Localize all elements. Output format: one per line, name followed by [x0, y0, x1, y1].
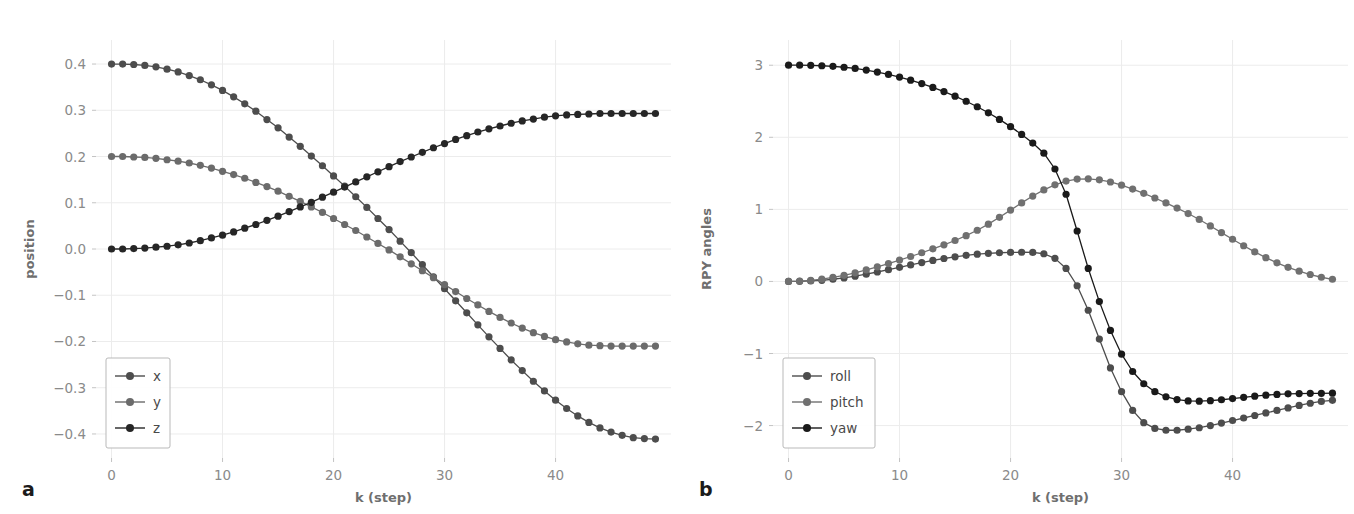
- data-point: [1018, 249, 1025, 256]
- data-point: [630, 434, 637, 441]
- data-point: [130, 61, 137, 68]
- x-tick-label: 30: [1113, 467, 1130, 483]
- data-point: [1062, 178, 1069, 185]
- data-point: [996, 116, 1003, 123]
- data-point: [263, 183, 270, 190]
- data-point: [374, 215, 381, 222]
- data-point: [452, 297, 459, 304]
- data-point: [1151, 388, 1158, 395]
- x-tick-label: 0: [107, 467, 116, 483]
- data-point: [152, 63, 159, 70]
- data-point: [574, 111, 581, 118]
- y-axis-title: RPY angles: [699, 208, 714, 290]
- data-point: [130, 245, 137, 252]
- data-point: [230, 228, 237, 235]
- data-point: [1262, 392, 1269, 399]
- data-point: [1318, 274, 1325, 281]
- data-point: [197, 76, 204, 83]
- x-tick-label: 10: [891, 467, 908, 483]
- data-point: [1162, 199, 1169, 206]
- data-point: [297, 143, 304, 150]
- legend-marker: [126, 398, 134, 406]
- panel-b: −2−10123010203040k (step)RPY anglesrollp…: [677, 0, 1354, 514]
- y-tick-label: 0.0: [65, 241, 86, 257]
- data-point: [1185, 210, 1192, 217]
- data-point: [508, 356, 515, 363]
- data-point: [186, 159, 193, 166]
- y-tick-label: −2: [743, 418, 763, 434]
- data-point: [1318, 398, 1325, 405]
- data-point: [219, 87, 226, 94]
- data-point: [1085, 265, 1092, 272]
- data-point: [1085, 175, 1092, 182]
- data-point: [141, 62, 148, 69]
- legend: rollpitchyaw: [783, 358, 875, 448]
- data-point: [197, 162, 204, 169]
- y-tick-label: −0.2: [53, 333, 86, 349]
- legend-marker: [126, 424, 134, 432]
- y-tick-label: 2: [754, 129, 763, 145]
- data-point: [219, 168, 226, 175]
- data-point: [1307, 400, 1314, 407]
- x-tick-label: 20: [325, 467, 342, 483]
- data-point: [452, 288, 459, 295]
- data-point: [585, 110, 592, 117]
- y-tick-label: 0.4: [65, 56, 86, 72]
- data-point: [363, 204, 370, 211]
- data-point: [1007, 206, 1014, 213]
- data-point: [852, 65, 859, 72]
- data-point: [175, 241, 182, 248]
- data-point: [1074, 282, 1081, 289]
- data-point: [1051, 165, 1058, 172]
- data-point: [1185, 397, 1192, 404]
- data-point: [541, 387, 548, 394]
- data-point: [552, 336, 559, 343]
- data-point: [119, 60, 126, 67]
- data-point: [1284, 264, 1291, 271]
- data-point: [1118, 388, 1125, 395]
- data-point: [940, 255, 947, 262]
- data-point: [785, 278, 792, 285]
- data-point: [974, 227, 981, 234]
- data-point: [951, 253, 958, 260]
- data-point: [485, 333, 492, 340]
- legend-label: x: [153, 368, 161, 384]
- y-tick-label: 1: [754, 201, 763, 217]
- data-point: [530, 378, 537, 385]
- data-point: [286, 134, 293, 141]
- data-point: [1051, 181, 1058, 188]
- data-point: [441, 281, 448, 288]
- data-point: [1273, 259, 1280, 266]
- data-point: [397, 238, 404, 245]
- data-point: [1062, 265, 1069, 272]
- data-point: [463, 309, 470, 316]
- data-point: [496, 122, 503, 129]
- data-point: [1162, 427, 1169, 434]
- data-point: [541, 333, 548, 340]
- x-axis-title: k (step): [1032, 490, 1089, 505]
- data-point: [1240, 414, 1247, 421]
- data-point: [963, 98, 970, 105]
- series-y: [108, 153, 659, 350]
- data-point: [163, 66, 170, 73]
- data-point: [1318, 390, 1325, 397]
- x-tick-label: 0: [784, 467, 793, 483]
- data-point: [474, 301, 481, 308]
- data-point: [940, 241, 947, 248]
- data-point: [985, 250, 992, 257]
- data-point: [1151, 425, 1158, 432]
- data-point: [219, 232, 226, 239]
- data-point: [319, 194, 326, 201]
- data-point: [274, 188, 281, 195]
- data-point: [408, 153, 415, 160]
- data-point: [1229, 417, 1236, 424]
- data-point: [985, 221, 992, 228]
- x-tick-label: 40: [1224, 467, 1241, 483]
- data-point: [352, 193, 359, 200]
- data-point: [1129, 407, 1136, 414]
- data-point: [1207, 222, 1214, 229]
- data-point: [1107, 178, 1114, 185]
- data-point: [274, 213, 281, 220]
- data-point: [574, 412, 581, 419]
- y-tick-label: 0.1: [65, 195, 86, 211]
